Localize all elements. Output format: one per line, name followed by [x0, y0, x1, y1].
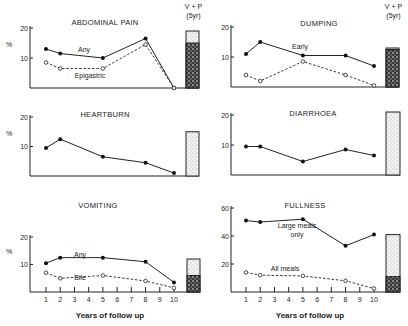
- data-point-open: [101, 274, 105, 278]
- data-point-filled: [172, 280, 176, 284]
- x-tick-label: 8: [344, 296, 348, 303]
- data-point-filled: [144, 260, 148, 264]
- panel-title: HEARTBURN: [80, 110, 129, 119]
- comparison-bar-total: [186, 132, 199, 176]
- data-point-filled: [44, 146, 48, 150]
- data-point-open: [101, 67, 105, 71]
- x-tick-label: 9: [158, 296, 162, 303]
- comparison-bar-dark-portion: [186, 43, 199, 88]
- data-point-filled: [344, 54, 348, 58]
- bar-header-line1: V + P: [385, 3, 403, 10]
- panel-heartburn: HEARTBURN1020%: [6, 110, 199, 176]
- x-tick-label: 6: [115, 296, 119, 303]
- y-axis-label: %: [6, 41, 12, 48]
- x-tick-label: 2: [58, 296, 62, 303]
- x-tick-label: 7: [129, 296, 133, 303]
- bar-header-line2: (5yr): [186, 12, 200, 20]
- panel-title: ABDOMINAL PAIN: [71, 18, 138, 27]
- x-tick-label: 2: [258, 296, 262, 303]
- data-point-open: [172, 86, 176, 90]
- data-point-filled: [144, 161, 148, 165]
- x-axis-label: Years of follow up: [76, 311, 145, 320]
- comparison-bar-total: [386, 112, 400, 175]
- x-tick-label: 5: [101, 296, 105, 303]
- series-label: Large meals: [278, 222, 317, 230]
- multi-panel-figure: ABDOMINAL PAIN1020%V + P(5yr)AnyEpigastr…: [0, 0, 408, 326]
- data-point-filled: [244, 52, 248, 56]
- bar-header-line1: V + P: [185, 3, 203, 10]
- panel-diarrhoea: DIARRHOEA1020: [221, 109, 400, 175]
- data-point-open: [301, 60, 305, 64]
- series-label: Any: [74, 251, 87, 259]
- x-tick-label: 10: [370, 296, 378, 303]
- data-point-open: [144, 279, 148, 283]
- data-point-filled: [172, 171, 176, 175]
- data-point-filled: [44, 47, 48, 51]
- data-point-open: [344, 279, 348, 283]
- data-point-filled: [258, 145, 262, 149]
- bar-header-line2: (5yr): [386, 12, 400, 20]
- x-tick-label: 4: [287, 296, 291, 303]
- y-tick-label: 40: [221, 233, 229, 240]
- data-point-open: [58, 276, 62, 280]
- y-tick-label: 20: [20, 234, 28, 241]
- series-label: Epigastric: [75, 72, 106, 80]
- y-tick-label: 60: [221, 205, 229, 212]
- data-point-filled: [144, 37, 148, 41]
- y-tick-label: 20: [221, 261, 229, 268]
- y-tick-label: 10: [20, 55, 28, 62]
- data-point-open: [244, 271, 248, 275]
- y-tick-label: 20: [221, 24, 229, 31]
- data-point-filled: [44, 261, 48, 265]
- data-point-open: [58, 67, 62, 71]
- series-line: [46, 273, 174, 288]
- data-point-filled: [301, 160, 305, 164]
- data-point-filled: [258, 220, 262, 224]
- data-point-filled: [344, 148, 348, 152]
- series-line: [46, 45, 174, 89]
- data-point-filled: [344, 244, 348, 248]
- x-tick-label: 4: [87, 296, 91, 303]
- comparison-bar-dark-portion: [386, 50, 399, 88]
- data-point-filled: [372, 233, 376, 237]
- series-line: [46, 39, 174, 89]
- x-tick-label: 3: [72, 296, 76, 303]
- x-tick-label: 8: [144, 296, 148, 303]
- panel-title: VOMITING: [78, 201, 117, 210]
- panel-fullness: FULLNESS20406012345678910Years of follow…: [221, 201, 400, 320]
- y-tick-label: 20: [20, 114, 28, 121]
- data-point-open: [44, 61, 48, 65]
- panel-dumping: DUMPING1020V + P(5yr)Early: [221, 3, 402, 87]
- y-tick-label: 20: [20, 25, 28, 32]
- data-point-open: [172, 286, 176, 290]
- x-axis-label: Years of follow up: [276, 311, 345, 320]
- x-tick-label: 6: [315, 296, 319, 303]
- panel-title: DIARRHOEA: [289, 109, 336, 118]
- x-tick-label: 10: [170, 296, 178, 303]
- data-point-open: [372, 84, 376, 88]
- comparison-bar-dark-portion: [386, 277, 400, 292]
- series-label: Early: [292, 43, 308, 51]
- series-label: Any: [78, 46, 91, 54]
- y-tick-label: 10: [221, 142, 229, 149]
- data-point-open: [344, 73, 348, 77]
- data-point-filled: [372, 64, 376, 68]
- series-line: [246, 272, 374, 288]
- x-tick-label: 1: [244, 296, 248, 303]
- data-point-open: [372, 287, 376, 291]
- data-point-open: [258, 273, 262, 277]
- data-point-filled: [258, 40, 262, 44]
- x-tick-label: 3: [272, 296, 276, 303]
- data-point-filled: [372, 154, 376, 158]
- x-tick-label: 1: [44, 296, 48, 303]
- data-point-open: [44, 271, 48, 275]
- series-line: [246, 42, 374, 66]
- comparison-bar-dark-portion: [187, 276, 200, 293]
- series-label: Bile: [74, 274, 86, 281]
- data-point-filled: [58, 137, 62, 141]
- data-point-open: [244, 73, 248, 77]
- panel-title: FULLNESS: [284, 201, 325, 210]
- data-point-filled: [101, 256, 105, 260]
- data-point-filled: [301, 54, 305, 58]
- series-line: [46, 139, 174, 173]
